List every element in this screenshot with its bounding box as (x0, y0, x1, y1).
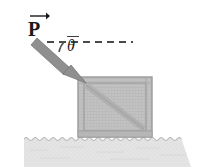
angle-label: θ (67, 38, 75, 54)
crate (78, 77, 152, 137)
physics-diagram-crate-with-applied-force: P θ (0, 0, 201, 167)
force-vector-arrow (31, 38, 86, 83)
force-label: P (28, 19, 40, 39)
angle-label-text: θ (67, 37, 75, 54)
angle-arc-marker (59, 42, 64, 52)
force-label-text: P (28, 18, 40, 40)
crate-skid (78, 131, 152, 137)
angle-label-overbar (67, 36, 79, 37)
ground-surface (24, 138, 191, 168)
ground-line (24, 138, 182, 141)
force-arrow-shaft (31, 38, 70, 75)
